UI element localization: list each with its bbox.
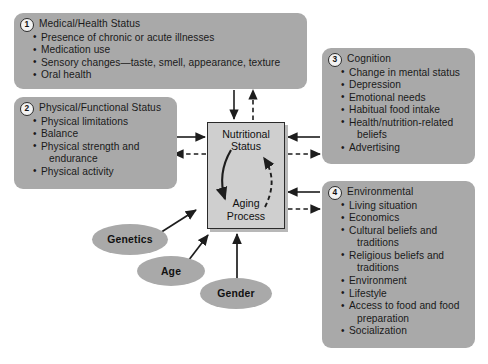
list-item: Balance	[33, 128, 171, 141]
ellipse-gender[interactable]: Gender	[200, 278, 272, 309]
panel-4-list: Living situation Economics Cultural beli…	[328, 200, 469, 339]
center-node-bottom-label: Aging Process	[208, 197, 284, 222]
list-item: Economics	[341, 212, 469, 225]
list-item: Habitual food intake	[341, 104, 469, 117]
list-item: Medication use	[33, 44, 301, 57]
list-item: Socialization	[341, 325, 469, 338]
list-item-continuation: traditions	[341, 237, 469, 250]
list-item: Oral health	[33, 69, 301, 82]
panel-3-list: Change in mental status Depression Emoti…	[328, 67, 469, 155]
list-item: Health/nutrition-related	[341, 117, 469, 130]
list-item: Environment	[341, 275, 469, 288]
center-node-top-line2: Status	[208, 140, 284, 152]
panel-physical-functional-status[interactable]: 2 Physical/Functional Status Physical li…	[14, 97, 177, 189]
list-item: Sensory changes—taste, smell, appearance…	[33, 57, 301, 70]
list-item: Emotional needs	[341, 92, 469, 105]
ellipse-age[interactable]: Age	[137, 256, 205, 286]
list-item: Lifestyle	[341, 288, 469, 301]
panel-3-title: Cognition	[347, 52, 391, 65]
list-item: Religious beliefs and	[341, 250, 469, 263]
center-node-top-line1: Nutritional	[208, 128, 284, 140]
center-node-nutritional-status-aging-process[interactable]: Nutritional Status Aging Process	[207, 122, 285, 229]
panel-cognition[interactable]: 3 Cognition Change in mental status Depr…	[322, 48, 475, 164]
list-item: Presence of chronic or acute illnesses	[33, 32, 301, 45]
list-item-continuation: beliefs	[341, 129, 469, 142]
diagram-canvas: 1 Medical/Health Status Presence of chro…	[0, 0, 488, 364]
center-node-bottom-line1: Aging	[208, 197, 284, 209]
panel-2-header: 2 Physical/Functional Status	[20, 101, 171, 116]
panel-2-number: 2	[20, 102, 34, 116]
panel-1-list: Presence of chronic or acute illnesses M…	[20, 32, 301, 82]
list-item: Physical strength and	[33, 141, 171, 154]
ellipse-gender-label: Gender	[217, 288, 255, 299]
panel-2-list: Physical limitations Balance Physical st…	[20, 116, 171, 179]
panel-3-header: 3 Cognition	[328, 52, 469, 67]
panel-4-title: Environmental	[347, 185, 413, 198]
list-item-continuation: traditions	[341, 262, 469, 275]
ellipse-genetics-label: Genetics	[107, 234, 153, 245]
list-item-continuation: endurance	[33, 153, 171, 166]
ellipse-genetics[interactable]: Genetics	[92, 224, 168, 255]
panel-1-number: 1	[20, 18, 34, 32]
list-item: Physical limitations	[33, 116, 171, 129]
panel-4-number: 4	[328, 186, 342, 200]
center-node-bottom-line2: Process	[208, 210, 284, 222]
ellipse-age-label: Age	[161, 266, 181, 277]
panel-2-title: Physical/Functional Status	[39, 101, 161, 114]
list-item: Depression	[341, 79, 469, 92]
panel-1-title: Medical/Health Status	[39, 17, 140, 30]
panel-3-number: 3	[328, 53, 342, 67]
panel-environmental[interactable]: 4 Environmental Living situation Economi…	[322, 181, 475, 348]
panel-1-header: 1 Medical/Health Status	[20, 17, 301, 32]
list-item-continuation: preparation	[341, 313, 469, 326]
list-item: Living situation	[341, 200, 469, 213]
list-item: Change in mental status	[341, 67, 469, 80]
list-item: Physical activity	[33, 166, 171, 179]
center-node-top-label: Nutritional Status	[208, 128, 284, 153]
list-item: Cultural beliefs and	[341, 225, 469, 238]
cycle-arrow-solid-descending	[222, 150, 231, 199]
panel-4-header: 4 Environmental	[328, 185, 469, 200]
list-item: Access to food and food	[341, 300, 469, 313]
panel-medical-health-status[interactable]: 1 Medical/Health Status Presence of chro…	[14, 13, 307, 89]
list-item: Advertising	[341, 142, 469, 155]
